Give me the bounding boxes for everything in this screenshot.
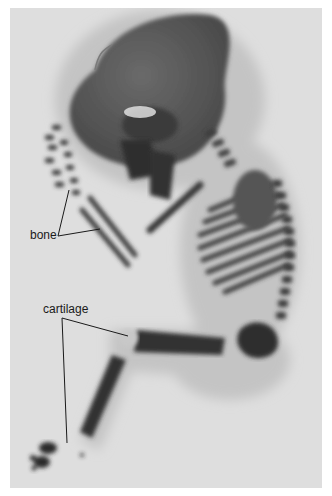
shoulder-blade (233, 170, 277, 230)
specimen-figure: bone cartilage (0, 0, 332, 496)
skeleton-illustration (10, 8, 322, 488)
knee-cartilage (118, 329, 138, 347)
specimen-photo (10, 8, 322, 488)
cartilage-label: cartilage (43, 303, 88, 315)
foot-bones (30, 442, 84, 471)
bone-label: bone (30, 229, 57, 241)
